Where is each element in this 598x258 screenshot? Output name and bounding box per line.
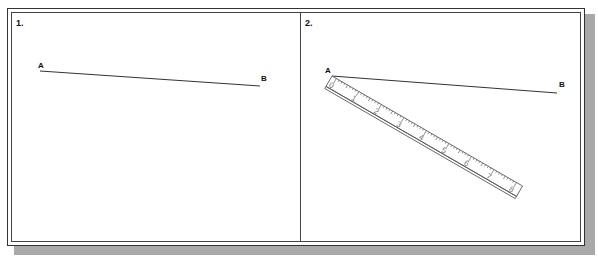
point-b-label: B	[261, 74, 267, 83]
panel-2: 2. A B	[301, 13, 580, 241]
line-ab-drawing: A B	[12, 13, 300, 245]
panel-1: 1. A B	[12, 13, 300, 241]
line-ab	[332, 76, 557, 93]
point-a-label: A	[38, 61, 44, 70]
ruler-numbers: 0 1 2 3 4 5 6 7 8	[327, 80, 516, 194]
line-ab-with-ruler-drawing: A B	[301, 13, 581, 245]
figure-frame: 1. A B 2. A B	[7, 8, 585, 246]
point-a-label: A	[325, 66, 331, 75]
ruler: 0 1 2 3 4 5 6 7 8	[325, 76, 523, 199]
line-ab	[40, 71, 260, 86]
figure-inner-border: 1. A B 2. A B	[11, 12, 581, 242]
point-b-label: B	[559, 80, 565, 89]
